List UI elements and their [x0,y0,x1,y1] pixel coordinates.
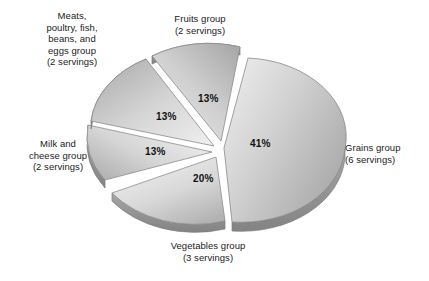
data-label-vegetables: 20% [193,173,214,184]
data-label-fruits: 13% [198,93,219,104]
data-label-grains: 41% [250,138,271,149]
slice-label-milk-and-cheese: Milk and cheese group (2 servings) [0,138,116,173]
pie-chart: 13% 13% 13% 20% 41% Meats, poultry, fish… [0,0,429,281]
slice-label-meats-poultry-fish-beans-eggs: Meats, poultry, fish, beans, and eggs gr… [6,10,138,68]
slice-label-grains: Grains group (6 servings) [345,142,429,165]
slice-label-fruits: Fruits group (2 servings) [148,13,252,36]
slice-label-vegetables: Vegetables group (3 servings) [140,240,276,263]
data-label-milk: 13% [145,146,166,157]
pie-slice-grains [224,58,346,231]
data-label-meats: 13% [156,111,177,122]
